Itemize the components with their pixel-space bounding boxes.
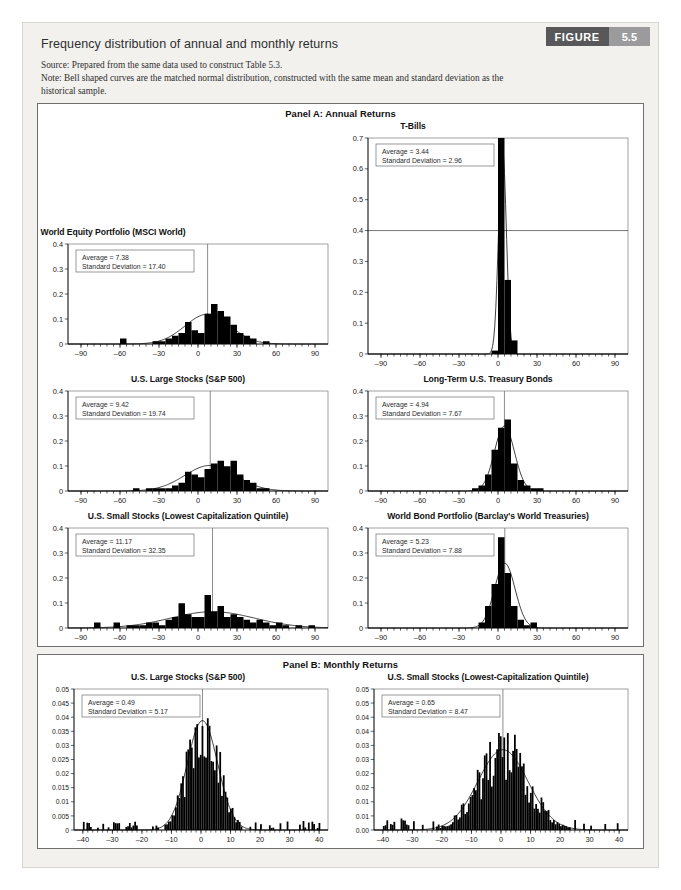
figure-badge-word: FIGURE [546,27,609,46]
x-tick-label: 60 [572,359,580,368]
x-tick-label: –30 [453,359,465,368]
y-tick-label: 0.045 [52,700,69,707]
chart-title-us-small-stocks-monthly: U.S. Small Stocks (Lowest-Capitalization… [338,672,638,682]
x-tick-label: –10 [165,835,177,844]
stat-sd-label: Standard Deviation = 19.74 [82,410,166,417]
y-tick-label: 0.2 [353,437,363,446]
x-tick-label: –30 [453,633,465,642]
x-tick-label: 60 [272,349,280,358]
panel-a-row-1: World Equity Portfolio (MSCI World)–90–6… [38,119,638,372]
stat-average-label: Average = 0.49 [88,699,135,707]
x-tick-label: –60 [414,359,426,368]
chart-title-us-small-stocks-annual: U.S. Small Stocks (Lowest Capitalization… [38,511,338,521]
x-tick-label: –60 [114,496,126,505]
y-tick-label: 0.3 [353,549,363,558]
x-tick-label: –90 [375,496,387,505]
y-tick-label: 0.5 [353,196,363,205]
x-tick-label: –40 [77,835,89,844]
stat-average-label: Average = 7.38 [82,254,129,262]
x-tick-label: 0 [196,633,200,642]
y-tick-label: 0.01 [56,799,69,806]
y-tick-label: 0.02 [356,771,369,778]
y-tick-label: 0.1 [353,462,363,471]
y-tick-label: 0 [59,624,63,633]
stat-average-label: Average = 11.17 [82,538,132,546]
y-tick-label: 0.025 [52,757,69,764]
histogram-bars [83,719,320,831]
chart-world-bond-portfolio: –90–60–30030609000.10.20.30.4Average = 5… [338,522,638,646]
panel-b-row-1: U.S. Large Stocks (S&P 500)–40–30–20–100… [38,670,638,848]
x-tick-label: 90 [611,496,619,505]
x-tick-label: 90 [311,496,319,505]
stat-average-label: Average = 5.23 [382,538,429,546]
stat-sd-label: Standard Deviation = 7.67 [382,410,462,417]
x-tick-label: –40 [377,835,389,844]
figure-header: FIGURE 5.5 Frequency distribution of ann… [23,23,658,103]
x-tick-label: 20 [556,835,564,844]
y-tick-label: 0.03 [56,742,69,749]
chart-us-large-stocks-annual: –90–60–30030609000.10.20.30.4Average = 9… [38,385,338,509]
y-tick-label: 0 [59,487,63,496]
x-tick-label: –30 [453,496,465,505]
panel-b-chart-grid: U.S. Large Stocks (S&P 500)–40–30–20–100… [38,670,643,848]
chart-title-us-large-stocks-annual: U.S. Large Stocks (S&P 500) [38,374,338,384]
x-tick-label: 0 [496,633,500,642]
histogram-bars [94,595,315,628]
x-tick-label: –90 [375,359,387,368]
y-tick-label: 0.00 [356,827,369,834]
y-tick-label: 0 [359,350,363,359]
stat-sd-label: Standard Deviation = 17.40 [82,263,166,270]
chart-us-large-stocks-monthly: –40–30–20–1001020304000.0050.010.0150.02… [38,683,338,848]
y-tick-label: 0 [65,827,69,834]
chart-title-long-term-treasury-bonds: Long-Term U.S. Treasury Bonds [338,374,638,384]
y-tick-label: 0.4 [53,240,63,249]
x-tick-label: –60 [414,496,426,505]
x-tick-label: 0 [199,835,203,844]
x-tick-label: 30 [533,359,541,368]
y-tick-label: 0.2 [353,288,363,297]
y-tick-label: 0.4 [353,524,363,533]
x-tick-label: 90 [311,633,319,642]
figure-bell-note: Note: Bell shaped curves are the matched… [41,72,640,85]
y-tick-label: 0.2 [53,437,63,446]
panel-a-row-3: U.S. Small Stocks (Lowest Capitalization… [38,509,638,646]
chart-title-world-bond-portfolio: World Bond Portfolio (Barclay's World Tr… [338,511,638,521]
y-tick-label: 0.01 [356,813,369,820]
y-tick-label: 0.1 [53,315,63,324]
histogram-bars [383,733,619,830]
x-tick-label: –60 [114,349,126,358]
stat-sd-label: Standard Deviation = 2.96 [382,157,462,164]
y-tick-label: 0.04 [356,714,369,721]
x-tick-label: 90 [611,359,619,368]
histogram-bars [133,461,270,491]
x-tick-label: 10 [526,835,534,844]
y-tick-label: 0.03 [356,742,369,749]
chart-us-small-stocks-monthly: –40–30–20–100102030400.000.010.010.020.0… [338,683,638,848]
y-tick-label: 0.1 [53,599,63,608]
y-tick-label: 0.4 [53,524,63,533]
chart-world-equity-portfolio: –90–60–30030609000.10.20.30.4Average = 7… [38,238,338,362]
panel-a-row-1-left: World Equity Portfolio (MSCI World)–90–6… [38,119,338,372]
x-tick-label: 0 [196,349,200,358]
x-tick-label: –20 [136,835,148,844]
y-tick-label: 0.3 [53,412,63,421]
y-tick-label: 0.3 [353,412,363,421]
y-tick-label: 0 [359,487,363,496]
chart-title-world-equity-portfolio: World Equity Portfolio (MSCI World) [38,227,188,237]
chart-cell-t-bills: T-Bills–90–60–30030609000.10.20.30.40.50… [338,121,488,372]
figure-source-note: Source: Prepared from the same data used… [41,59,640,72]
figure-bell-note-continued: historical sample. [41,85,640,98]
figure-badge: FIGURE 5.5 [546,27,650,46]
panel-b: Panel B: Monthly Returns U.S. Large Stoc… [37,654,644,849]
x-tick-label: –30 [153,633,165,642]
y-tick-label: 0.04 [56,714,69,721]
x-tick-label: 40 [315,835,323,844]
y-tick-label: 0.3 [353,258,363,267]
x-tick-label: –60 [414,633,426,642]
figure-badge-number: 5.5 [609,27,650,46]
x-tick-label: 0 [499,835,503,844]
stat-sd-label: Standard Deviation = 7.88 [382,547,462,554]
x-tick-label: 10 [226,835,234,844]
y-tick-label: 0.7 [353,134,363,143]
panel-b-heading: Panel B: Monthly Returns [38,655,643,670]
